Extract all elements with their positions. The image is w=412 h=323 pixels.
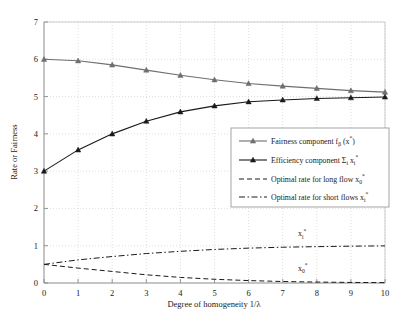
y-tick-label: 7 bbox=[34, 17, 38, 27]
x-tick-label: 4 bbox=[178, 288, 183, 298]
y-tick-label: 1 bbox=[34, 241, 38, 251]
x-tick-label: 6 bbox=[246, 288, 250, 298]
legend-label: Fairness component fβ (x*) bbox=[271, 135, 355, 147]
x-tick-label: 8 bbox=[315, 288, 319, 298]
figure-container: 01234567891001234567 Degree of homogenei… bbox=[0, 0, 412, 323]
x-tick-label: 1 bbox=[76, 288, 80, 298]
x-tick-label: 7 bbox=[281, 288, 285, 298]
y-tick-label: 4 bbox=[34, 129, 39, 139]
y-tick-label: 0 bbox=[34, 278, 38, 288]
legend: Fairness component fβ (x*)Efficiency com… bbox=[231, 128, 389, 207]
x-axis-title: Degree of homogeneity 1/λ bbox=[167, 299, 261, 309]
x-tick-label: 0 bbox=[42, 288, 46, 298]
y-tick-label: 3 bbox=[34, 166, 38, 176]
y-axis-title: Rate or Fairness bbox=[9, 124, 19, 179]
x-tick-label: 9 bbox=[349, 288, 353, 298]
y-tick-label: 5 bbox=[34, 92, 38, 102]
y-tick-label: 6 bbox=[34, 54, 38, 64]
x-tick-label: 10 bbox=[381, 288, 390, 298]
legend-label: Efficiency component Σi xi* bbox=[271, 154, 358, 166]
legend-label: Optimal rate for long flow x0* bbox=[271, 173, 365, 185]
x-tick-label: 2 bbox=[110, 288, 114, 298]
y-tick-label: 2 bbox=[34, 203, 38, 213]
legend-label: Optimal rate for short flows xi* bbox=[271, 191, 368, 203]
chart-canvas: 01234567891001234567 Degree of homogenei… bbox=[0, 0, 412, 323]
x-tick-label: 3 bbox=[144, 288, 148, 298]
x-tick-label: 5 bbox=[212, 288, 216, 298]
